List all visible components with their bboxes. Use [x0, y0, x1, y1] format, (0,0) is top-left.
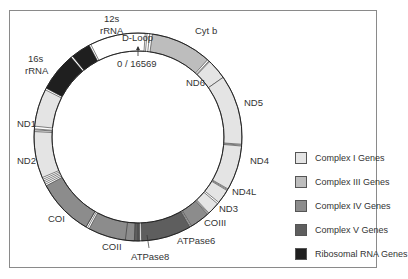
segment-coii [89, 213, 135, 241]
label-16s: 16s [28, 53, 43, 64]
legend-item-complex-v: Complex V Genes [295, 218, 408, 242]
label-nd2: ND2 [17, 155, 36, 166]
swatch-complex-iv [295, 200, 307, 212]
swatch-complex-i [295, 152, 307, 164]
label-12s: 12s [104, 13, 119, 24]
label-atpase8: ATPase8 [131, 251, 169, 262]
label-d-loop: D-Loop [122, 32, 153, 43]
label-16s-rrna: rRNA [25, 65, 48, 76]
segment-nd2 [34, 130, 59, 178]
legend-item-complex-iv: Complex IV Genes [295, 194, 408, 218]
legend-item-ribosomal-rna: Ribosomal RNA Genes [295, 242, 408, 266]
swatch-complex-iii [295, 176, 307, 188]
label-12s-rrna: rRNA [100, 25, 123, 36]
label-atpase6: ATPase6 [177, 235, 215, 246]
label-coii: COII [102, 241, 122, 252]
label-coi: COI [48, 213, 65, 224]
label-nd4l: ND4L [232, 186, 256, 197]
swatch-ribosomal-rna [295, 248, 307, 260]
legend-label: Complex III Genes [315, 177, 390, 187]
legend-label: Complex V Genes [315, 225, 388, 235]
label-cytb: Cyt b [195, 25, 217, 36]
legend-label: Complex I Genes [315, 153, 385, 163]
segment-nd5 [208, 77, 242, 144]
label-origin: 0 / 16569 [117, 58, 157, 69]
label-nd1: ND1 [17, 118, 36, 129]
label-coiii: COIII [204, 217, 226, 228]
label-nd5: ND5 [244, 97, 263, 108]
legend-label: Complex IV Genes [315, 201, 391, 211]
swatch-complex-v [295, 224, 307, 236]
legend-item-complex-i: Complex I Genes [295, 146, 408, 170]
legend-label: Ribosomal RNA Genes [315, 249, 408, 259]
label-nd6: ND6 [186, 77, 205, 88]
label-nd4: ND4 [250, 155, 269, 166]
legend-item-complex-iii: Complex III Genes [295, 170, 408, 194]
legend: Complex I Genes Complex III Genes Comple… [295, 146, 408, 266]
label-nd3: ND3 [219, 203, 238, 214]
